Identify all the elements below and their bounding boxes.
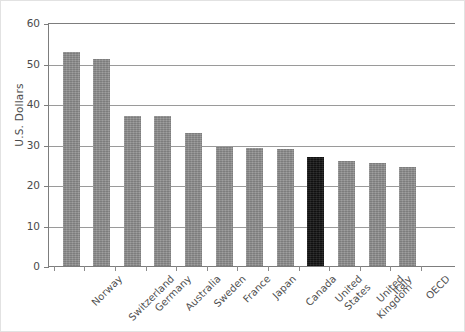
y-tick-mark-20 bbox=[44, 186, 49, 187]
x-tick-mark-8 bbox=[329, 266, 330, 271]
bar-france bbox=[216, 147, 233, 267]
x-tick-mark-11 bbox=[421, 266, 422, 271]
bar-norway bbox=[63, 52, 80, 267]
bar-canada bbox=[277, 149, 294, 267]
x-axis-label-japan: Japan bbox=[270, 273, 298, 301]
x-tick-mark-7 bbox=[299, 266, 300, 271]
x-tick-mark-10 bbox=[390, 266, 391, 271]
y-tick-mark-10 bbox=[44, 227, 49, 228]
y-tick-label-10: 10 bbox=[0, 221, 40, 232]
y-tick-mark-50 bbox=[44, 65, 49, 66]
x-axis-label-norway: Norway bbox=[89, 273, 124, 308]
x-axis-label-united-states: United States bbox=[333, 273, 373, 313]
bar-oecd bbox=[399, 167, 416, 267]
x-tick-mark-4 bbox=[207, 266, 208, 271]
x-tick-mark-9 bbox=[360, 266, 361, 271]
y-tick-label-40: 40 bbox=[0, 99, 40, 110]
bar-australia bbox=[154, 116, 171, 267]
y-tick-mark-30 bbox=[44, 146, 49, 147]
x-axis-line bbox=[48, 266, 455, 267]
bar-sweden bbox=[185, 133, 202, 267]
y-tick-label-0: 0 bbox=[0, 261, 40, 272]
x-tick-mark-3 bbox=[176, 266, 177, 271]
y-tick-label-50: 50 bbox=[0, 59, 40, 70]
x-axis-label-oecd: OECD bbox=[423, 273, 452, 302]
x-tick-mark-1 bbox=[115, 266, 116, 271]
y-tick-mark-60 bbox=[44, 24, 49, 25]
x-tick-mark-origin bbox=[54, 266, 55, 271]
bar-united-states bbox=[307, 157, 324, 267]
bar-chart: U.S. Dollars 0102030405060NorwaySwitzerl… bbox=[0, 0, 465, 332]
bar-italy bbox=[369, 163, 386, 267]
y-tick-mark-40 bbox=[44, 105, 49, 106]
y-tick-label-60: 60 bbox=[0, 18, 40, 29]
x-tick-mark-0 bbox=[84, 266, 85, 271]
x-axis-label-canada: Canada bbox=[304, 273, 339, 308]
bar-germany bbox=[124, 116, 141, 267]
bar-united-kingdom bbox=[338, 161, 355, 267]
y-tick-label-20: 20 bbox=[0, 180, 40, 191]
x-tick-mark-2 bbox=[146, 266, 147, 271]
bar-japan bbox=[246, 148, 263, 267]
plot-area bbox=[48, 23, 455, 267]
y-tick-label-30: 30 bbox=[0, 140, 40, 151]
x-tick-mark-5 bbox=[237, 266, 238, 271]
bar-switzerland bbox=[93, 59, 110, 267]
x-tick-mark-6 bbox=[268, 266, 269, 271]
